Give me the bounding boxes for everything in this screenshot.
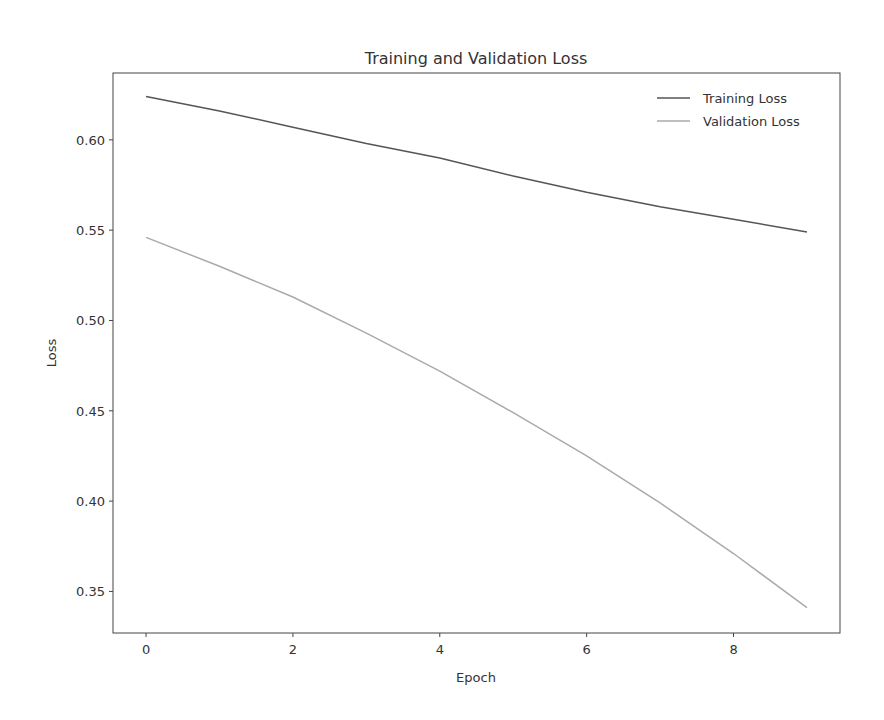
chart-title: Training and Validation Loss: [364, 49, 588, 68]
x-tick-label: 4: [436, 642, 444, 657]
legend-label: Validation Loss: [703, 114, 800, 129]
y-tick-label: 0.35: [76, 584, 105, 599]
plot-frame: [113, 73, 840, 633]
plot-lines: [146, 96, 807, 607]
validation-loss-line: [146, 237, 807, 607]
x-tick-label: 0: [142, 642, 150, 657]
x-tick-label: 6: [583, 642, 591, 657]
y-tick-label: 0.40: [76, 494, 105, 509]
y-tick-label: 0.55: [76, 223, 105, 238]
x-tick-label: 2: [289, 642, 297, 657]
y-axis-label: Loss: [44, 339, 59, 368]
loss-chart: Training and Validation Loss 0.350.400.4…: [0, 0, 884, 720]
y-tick-label: 0.50: [76, 313, 105, 328]
legend-label: Training Loss: [702, 91, 787, 106]
x-axis-ticks: 02468: [142, 633, 738, 657]
y-axis-ticks: 0.350.400.450.500.550.60: [76, 133, 113, 600]
legend: Training LossValidation Loss: [657, 91, 800, 129]
y-tick-label: 0.60: [76, 133, 105, 148]
x-tick-label: 8: [729, 642, 737, 657]
y-tick-label: 0.45: [76, 404, 105, 419]
x-axis-label: Epoch: [456, 670, 496, 685]
